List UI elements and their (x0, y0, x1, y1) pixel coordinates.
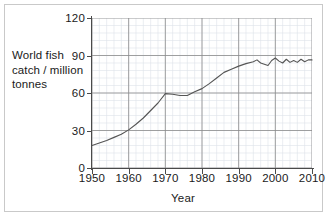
plot-area (92, 18, 312, 168)
x-axis-title: Year (0, 192, 328, 204)
x-tick-mark (92, 169, 93, 174)
y-axis-title: World fish catch / million tonnes (12, 48, 88, 92)
x-tick-mark (202, 169, 203, 174)
y-axis-title-line-3: tonnes (12, 77, 88, 92)
series-world-fish-catch (92, 58, 312, 146)
y-axis-title-line-2: catch / million (12, 63, 88, 78)
x-tick-mark (239, 169, 240, 174)
y-tick-label: 30 (0, 125, 85, 137)
chart-figure: 0306090120 1950196019701980199020002010 … (0, 0, 328, 217)
y-tick-mark (87, 18, 92, 19)
y-axis-title-line-1: World fish (12, 48, 88, 63)
x-tick-mark (165, 169, 166, 174)
x-tick-mark (275, 169, 276, 174)
y-tick-mark (87, 131, 92, 132)
y-tick-mark (87, 93, 92, 94)
x-axis-ticks: 1950196019701980199020002010 (0, 172, 328, 192)
x-tick-mark (129, 169, 130, 174)
y-tick-label: 120 (0, 12, 85, 24)
data-line-svg (92, 18, 312, 168)
x-axis-title-text: Year (171, 192, 195, 204)
x-tick-mark (312, 169, 313, 174)
